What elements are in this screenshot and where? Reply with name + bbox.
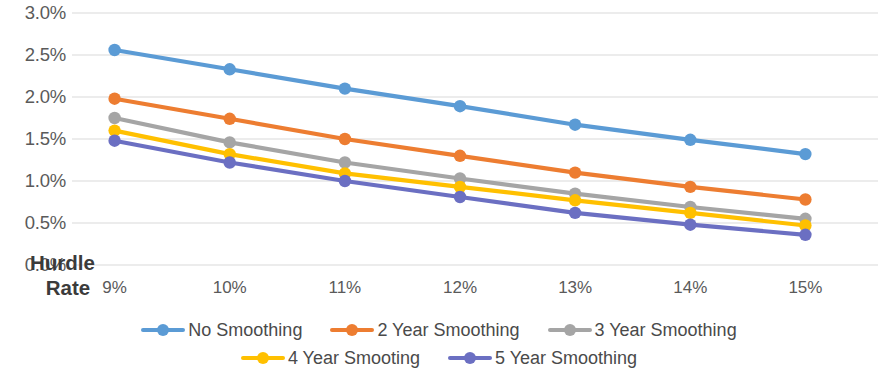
data-point-marker [224, 63, 236, 75]
data-point-marker [799, 193, 811, 205]
plot-svg [0, 0, 878, 315]
data-point-marker [569, 119, 581, 131]
legend-key-icon [241, 351, 285, 365]
legend-marker-dot [346, 324, 358, 336]
data-point-marker [454, 100, 466, 112]
x-axis-tick-label: 12% [443, 278, 477, 298]
legend-marker-dot [157, 324, 169, 336]
data-point-marker [684, 219, 696, 231]
legend-marker-dot [564, 324, 576, 336]
data-point-marker [569, 166, 581, 178]
data-point-marker [108, 93, 120, 105]
y-axis-tick-label: 0.5% [25, 212, 66, 234]
data-point-marker [454, 150, 466, 162]
x-axis-tick-label: 10% [213, 278, 247, 298]
legend-item[interactable]: 2 Year Smoothing [330, 320, 519, 341]
y-axis-tick-label: 2.0% [25, 86, 66, 108]
data-point-marker [569, 207, 581, 219]
series-3 [108, 112, 811, 225]
data-point-marker [224, 113, 236, 125]
legend-item[interactable]: 4 Year Smooting [241, 348, 420, 369]
legend-item[interactable]: No Smoothing [141, 320, 302, 341]
data-point-marker [684, 181, 696, 193]
legend-item[interactable]: 3 Year Smoothing [548, 320, 737, 341]
x-axis-title-line1: Hurdle [30, 251, 95, 274]
data-point-marker [684, 134, 696, 146]
legend-label: 5 Year Smoothing [495, 348, 637, 369]
x-axis-title: Hurdle Rate [30, 250, 106, 300]
y-axis-tick-label: 3.0% [25, 2, 66, 24]
legend-key-icon [141, 323, 185, 337]
legend-key-icon [448, 351, 492, 365]
data-point-marker [108, 135, 120, 147]
data-point-marker [339, 133, 351, 145]
chart-legend: No Smoothing2 Year Smoothing3 Year Smoot… [0, 316, 878, 378]
data-point-marker [339, 156, 351, 168]
legend-label: 3 Year Smoothing [595, 320, 737, 341]
data-point-marker [108, 44, 120, 56]
gridlines [72, 13, 878, 265]
legend-label: 4 Year Smooting [288, 348, 420, 369]
series-1 [108, 44, 811, 161]
data-point-marker [339, 82, 351, 94]
legend-marker-dot [464, 352, 476, 364]
x-axis-title-line2: Rate [30, 275, 106, 300]
data-point-marker [108, 112, 120, 124]
plot-area: 3.0%2.5%2.0%1.5%1.0%0.5%0.0% 9%10%11%12%… [0, 0, 878, 315]
data-point-marker [454, 191, 466, 203]
data-point-marker [799, 148, 811, 160]
x-axis-tick-label: 15% [788, 278, 822, 298]
legend-key-icon [330, 323, 374, 337]
x-axis-tick-label: 13% [558, 278, 592, 298]
series-line [115, 118, 806, 219]
x-axis-tick-label: 14% [673, 278, 707, 298]
data-point-marker [224, 136, 236, 148]
data-point-marker [684, 207, 696, 219]
series-lines [108, 44, 811, 241]
legend-label: 2 Year Smoothing [377, 320, 519, 341]
y-axis-tick-label: 2.5% [25, 44, 66, 66]
legend-row-2: 4 Year Smooting5 Year Smoothing [0, 344, 878, 372]
data-point-marker [339, 175, 351, 187]
data-point-marker [569, 194, 581, 206]
legend-marker-dot [257, 352, 269, 364]
data-point-marker [799, 229, 811, 241]
y-axis-tick-labels: 3.0%2.5%2.0%1.5%1.0%0.5%0.0% [0, 0, 72, 280]
data-point-marker [224, 156, 236, 168]
legend-row-1: No Smoothing2 Year Smoothing3 Year Smoot… [0, 316, 878, 344]
y-axis-tick-label: 1.0% [25, 170, 66, 192]
y-axis-tick-label: 1.5% [25, 128, 66, 150]
legend-label: No Smoothing [188, 320, 302, 341]
legend-key-icon [548, 323, 592, 337]
line-chart: 3.0%2.5%2.0%1.5%1.0%0.5%0.0% 9%10%11%12%… [0, 0, 878, 378]
x-axis-tick-label: 11% [328, 278, 361, 298]
legend-item[interactable]: 5 Year Smoothing [448, 348, 637, 369]
